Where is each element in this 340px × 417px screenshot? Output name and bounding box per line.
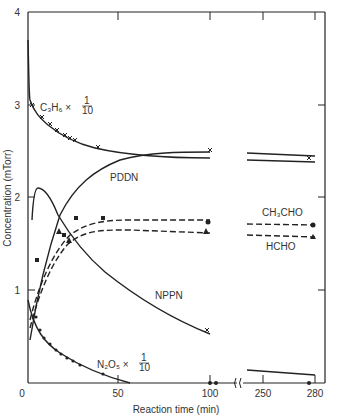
x-tick-label: 280 [307, 388, 324, 399]
y-tick-label: 2 [14, 192, 20, 203]
c3h6-markers [30, 103, 311, 160]
svg-text:10: 10 [139, 362, 151, 373]
plot-frame [28, 12, 325, 383]
label-ch3cho: CH₃CHO [262, 207, 303, 218]
label-nppn: NPPN [155, 290, 183, 301]
x-tick-label: 100 [202, 388, 219, 399]
series-c3h6 [28, 40, 315, 162]
ch3cho-markers [35, 216, 316, 262]
label-hcho: HCHO [266, 241, 296, 252]
series-n2o5 [28, 300, 315, 383]
n2o5-markers [34, 315, 311, 385]
concentration-chart: 4 3 2 1 0 50 100 250 280 Reaction time (… [0, 0, 340, 417]
label-pddn: PDDN [110, 172, 138, 183]
label-n2o5: N₂O₅ × 1 10 [97, 352, 151, 373]
y-tick-label: 0 [19, 388, 25, 399]
svg-text:N₂O₅ ×: N₂O₅ × [97, 359, 129, 370]
top-ticks [118, 12, 315, 20]
series-ch3cho [30, 220, 315, 320]
y-tick-label: 1 [14, 285, 20, 296]
y-tick-label: 3 [14, 100, 20, 111]
series-nppn [32, 188, 210, 334]
svg-text:C₃H₆ ×: C₃H₆ × [40, 102, 71, 113]
y-axis-title: Concentration (mTorr) [2, 149, 13, 246]
right-ticks [318, 105, 325, 290]
nppn-markers [205, 328, 209, 332]
x-axis-title: Reaction time (min) [133, 404, 220, 415]
svg-text:10: 10 [82, 105, 94, 116]
label-c3h6: C₃H₆ × 1 10 [40, 95, 94, 116]
x-tick-label: 250 [255, 388, 272, 399]
y-tick-label: 4 [14, 7, 20, 18]
x-tick-label: 50 [112, 388, 124, 399]
